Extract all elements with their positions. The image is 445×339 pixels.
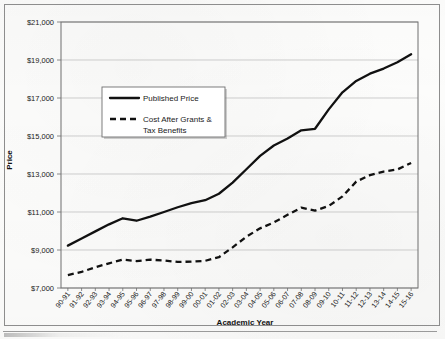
x-tick-label: 09-10 xyxy=(314,290,332,310)
series-line-published-price xyxy=(68,54,411,245)
y-tick-label: $17,000 xyxy=(27,94,54,103)
y-tick-label: $19,000 xyxy=(27,56,54,65)
y-tick-label: $11,000 xyxy=(27,208,54,217)
page-cut-smudge xyxy=(4,333,124,337)
chart-figure: $7,000$9,000$11,000$13,000$15,000$17,000… xyxy=(0,0,445,339)
y-axis-title: Price xyxy=(5,150,14,170)
y-tick-label: $15,000 xyxy=(27,132,54,141)
x-axis-ticks-group: 90-9191-9292-9393-9494-9595-9696-9797-98… xyxy=(54,288,416,310)
plot-area-border xyxy=(61,22,418,288)
x-tick-label: 15-16 xyxy=(397,290,415,310)
legend-label-cost-after-grants-line2: Tax Benefits xyxy=(143,126,187,135)
y-tick-label: $9,000 xyxy=(31,246,54,255)
x-axis-title: Academic Year xyxy=(217,318,274,327)
line-chart-plot: $7,000$9,000$11,000$13,000$15,000$17,000… xyxy=(0,0,445,339)
y-axis-ticks-group: $7,000$9,000$11,000$13,000$15,000$17,000… xyxy=(27,18,61,293)
page-cut-line xyxy=(3,331,437,332)
y-tick-label: $7,000 xyxy=(31,284,54,293)
x-tick-label: 10-11 xyxy=(328,290,346,310)
chart-legend: Published Price Cost After Grants & Tax … xyxy=(102,87,227,139)
legend-label-cost-after-grants-line1: Cost After Grants & xyxy=(143,115,213,124)
legend-label-published-price: Published Price xyxy=(143,94,199,103)
y-tick-label: $21,000 xyxy=(27,18,54,27)
gridlines-group xyxy=(61,22,418,288)
y-tick-label: $13,000 xyxy=(27,170,54,179)
